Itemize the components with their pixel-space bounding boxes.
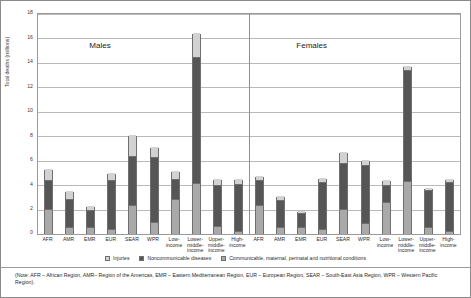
y-tick-label: 10 — [9, 108, 33, 113]
bar-females-12 — [297, 212, 306, 234]
bar-segment — [383, 186, 390, 203]
bar-segment — [214, 227, 221, 234]
bar-segment — [87, 228, 94, 234]
bar-males-4 — [128, 136, 137, 234]
bar-segment — [66, 200, 73, 228]
y-tick-label: 18 — [9, 10, 33, 15]
bar-segment — [108, 173, 115, 182]
legend-swatch-icon — [221, 256, 226, 261]
bar-segment — [404, 71, 411, 181]
chart-legend: InjuriesNoncommunicable diseasesCommunic… — [1, 255, 470, 261]
bar-segment — [340, 210, 347, 234]
bar-segment — [214, 179, 221, 186]
bar-males-8 — [213, 180, 222, 234]
bar-segment — [151, 147, 158, 158]
bar-segment — [129, 135, 136, 157]
bar-segment — [66, 191, 73, 199]
plot-area: Males Females — [37, 13, 461, 235]
bar-males-6 — [171, 172, 180, 234]
y-tick-label: 16 — [9, 35, 33, 40]
bar-segment — [108, 181, 115, 230]
legend-label: Communicable, maternal, perinatal and nu… — [229, 255, 366, 261]
bar-segment — [129, 206, 136, 234]
legend-item: Noncommunicable diseases — [139, 255, 211, 261]
bar-segment — [129, 157, 136, 206]
bar-segment — [45, 169, 52, 181]
bar-segment — [404, 182, 411, 234]
bar-females-16 — [382, 181, 391, 234]
bar-segment — [172, 200, 179, 234]
bar-segment — [298, 228, 305, 234]
bar-segment — [319, 183, 326, 231]
bar-segment — [151, 158, 158, 223]
bar-segment — [172, 180, 179, 200]
legend-item: Injuries — [105, 255, 129, 261]
y-tick-label: 2 — [9, 206, 33, 211]
y-tick-label: 4 — [9, 182, 33, 187]
legend-label: Noncommunicable diseases — [147, 255, 211, 261]
bar-females-11 — [276, 197, 285, 234]
legend-swatch-icon — [139, 256, 144, 261]
bar-segment — [66, 228, 73, 234]
bar-segment — [214, 186, 221, 227]
bar-males-1 — [65, 192, 74, 234]
bar-segment — [108, 230, 115, 234]
bar-females-14 — [339, 153, 348, 234]
bar-segment — [193, 58, 200, 184]
bar-segment — [45, 181, 52, 210]
bar-segment — [425, 191, 432, 228]
bar-segment — [193, 184, 200, 234]
bar-segment — [193, 33, 200, 58]
bar-segment — [277, 201, 284, 228]
chart-figure: Total deaths (millions) Males Females 02… — [0, 0, 471, 298]
y-tick-label: 6 — [9, 157, 33, 162]
bar-segment — [362, 166, 369, 225]
bar-segment — [256, 206, 263, 234]
bar-segment — [319, 230, 326, 234]
bar-segment — [298, 214, 305, 228]
bar-females-17 — [403, 67, 412, 234]
bar-segment — [172, 171, 179, 180]
legend-label: Injuries — [113, 255, 129, 261]
bar-males-5 — [150, 148, 159, 234]
note-box: (Note: AFR – African Region, AMR– Region… — [1, 267, 470, 297]
bar-females-13 — [318, 179, 327, 234]
bar-females-19 — [445, 180, 454, 234]
bar-males-2 — [86, 207, 95, 234]
bar-segment — [383, 203, 390, 234]
y-tick-label: 0 — [9, 230, 33, 235]
bar-segment — [87, 211, 94, 227]
legend-swatch-icon — [105, 256, 110, 261]
bar-segment — [235, 185, 242, 232]
bar-segment — [235, 232, 242, 234]
bar-females-18 — [424, 189, 433, 234]
bar-females-15 — [361, 161, 370, 234]
legend-item: Communicable, maternal, perinatal and nu… — [221, 255, 366, 261]
bar-males-0 — [44, 170, 53, 234]
bar-segment — [446, 232, 453, 234]
bar-segment — [340, 164, 347, 210]
x-tick-label: High-income — [436, 237, 461, 248]
bar-segment — [446, 183, 453, 232]
note-text: (Note: AFR – African Region, AMR– Region… — [15, 272, 456, 286]
y-tick-label: 12 — [9, 84, 33, 89]
bar-males-3 — [107, 174, 116, 235]
bar-males-9 — [234, 180, 243, 234]
bar-males-7 — [192, 34, 201, 234]
bar-segment — [45, 210, 52, 234]
bar-segment — [256, 181, 263, 206]
bar-segment — [340, 152, 347, 164]
y-tick-label: 8 — [9, 133, 33, 138]
bar-segment — [425, 228, 432, 234]
bar-segment — [277, 228, 284, 234]
bars-layer — [38, 14, 460, 234]
bar-segment — [151, 223, 158, 234]
bar-females-10 — [255, 177, 264, 234]
y-tick-label: 14 — [9, 59, 33, 64]
bar-segment — [362, 224, 369, 234]
